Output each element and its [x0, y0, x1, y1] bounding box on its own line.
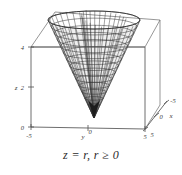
x-ticklabel-neg5: -5	[170, 97, 176, 104]
z-ticklabel-4: 4	[21, 44, 25, 51]
figure-3d-cone-plot: 0 2 4 z -5 0 5 y 5 0 -5 x z = r, r ≥ 0	[0, 0, 182, 175]
cone-surface	[48, 10, 140, 118]
z-ticklabel-0: 0	[21, 124, 25, 131]
y-axis-label: y	[80, 133, 85, 141]
figure-caption: z = r, r ≥ 0	[0, 148, 182, 163]
y-ticklabel-neg5: -5	[26, 132, 32, 139]
box-edge-bottom-right-diag	[145, 105, 160, 129]
x-axis-label: x	[168, 112, 173, 120]
box-edge-top-left-diag	[31, 12, 55, 47]
z-axis-label: z	[14, 84, 18, 92]
y-ticklabel-0: 0	[88, 128, 92, 135]
y-ticklabel-5: 5	[143, 133, 147, 140]
z-ticklabel-2: 2	[21, 84, 25, 91]
box-edge-top-right-diag	[145, 20, 160, 47]
x-ticklabel-5: 5	[150, 131, 154, 138]
x-ticklabel-0: 0	[159, 113, 163, 120]
x-tick-neg5	[164, 100, 169, 104]
box-edge-top-back	[55, 12, 160, 20]
cone-rim-ellipse	[48, 11, 140, 29]
